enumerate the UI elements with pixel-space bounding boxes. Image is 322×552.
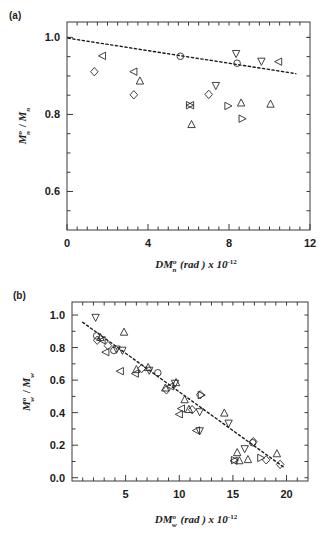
x-tick-label: 20 <box>280 488 292 500</box>
data-point-triangle-up <box>237 99 244 106</box>
x-tick-label: 10 <box>173 488 185 500</box>
data-point-triangle-down <box>232 50 239 57</box>
data-point-diamond <box>276 460 284 468</box>
title-subscript-2: n <box>24 108 32 112</box>
data-point-triangle-up <box>136 77 143 84</box>
data-point-triangle-right <box>225 102 232 109</box>
title-superscript: o <box>173 258 177 266</box>
title-subscript: w <box>28 397 36 402</box>
data-point-triangle-up <box>120 328 127 335</box>
data-point-triangle-left <box>116 367 123 374</box>
title-unit: (rad ) x 10 <box>178 513 229 526</box>
y-tick-label: 0.8 <box>50 342 65 354</box>
data-point-triangle-up <box>188 120 195 127</box>
data-point-triangle-left <box>275 58 282 65</box>
y-axis-title: Mon / Mn <box>16 108 32 146</box>
x-tick-label: 0 <box>64 237 70 249</box>
title-exponent: -12 <box>227 258 237 266</box>
data-point-triangle-down <box>258 58 265 65</box>
x-tick-label: 8 <box>226 237 232 249</box>
data-point-triangle-down <box>225 420 232 427</box>
panel-a: (a) 048120.60.81.0DMon (rad ) x 10-12Mon… <box>0 0 322 280</box>
data-point-triangle-down <box>92 314 99 321</box>
y-tick-label: 0.0 <box>50 472 65 484</box>
x-tick-label: 15 <box>227 488 239 500</box>
title-superscript: o <box>20 397 28 401</box>
y-tick-label: 0.2 <box>50 439 65 451</box>
data-point-triangle-down <box>212 82 219 89</box>
title-main: DM <box>154 513 174 525</box>
x-tick-label: 4 <box>145 237 152 249</box>
data-point-triangle-up <box>234 449 241 456</box>
data-point-diamond <box>130 91 138 99</box>
title-superscript: o <box>173 513 177 521</box>
title-superscript: o <box>16 130 24 134</box>
data-point-diamond <box>205 90 213 98</box>
y-tick-label: 1.0 <box>50 309 65 321</box>
y-tick-label: 0.8 <box>45 108 60 120</box>
data-point-diamond <box>91 67 99 75</box>
title-exponent: -12 <box>228 513 238 521</box>
data-point-triangle-up <box>267 100 274 107</box>
title-unit: (rad ) x 10 <box>177 258 228 271</box>
data-point-triangle-up <box>273 450 280 457</box>
data-point-triangle-down <box>241 446 248 453</box>
y-tick-label: 0.6 <box>50 374 65 386</box>
data-point-triangle-left <box>175 411 182 418</box>
title-subscript: n <box>24 131 32 135</box>
data-point-triangle-left <box>131 370 138 377</box>
trend-line <box>68 38 296 73</box>
x-tick-label: 12 <box>304 237 316 249</box>
data-point-triangle-down <box>196 409 203 416</box>
title-subscript-2: w <box>28 373 36 378</box>
y-tick-label: 1.0 <box>45 31 60 43</box>
title-subscript: n <box>172 266 176 274</box>
panel-b-plot: 51015200.00.20.40.60.81.0DMow (rad ) x 1… <box>0 280 322 552</box>
title-slash: / <box>20 387 32 396</box>
data-point-circle <box>234 60 241 67</box>
title-slash: / <box>16 121 28 130</box>
plot-frame <box>72 302 308 481</box>
title-main: DM <box>154 258 174 270</box>
data-point-circle <box>155 370 162 377</box>
y-axis-title: Mow / Mw <box>20 373 36 412</box>
x-tick-label: 5 <box>123 488 129 500</box>
data-point-triangle-up <box>221 409 228 416</box>
figure-container: (a) 048120.60.81.0DMon (rad ) x 10-12Mon… <box>0 0 322 552</box>
data-point-triangle-up <box>244 456 251 463</box>
data-point-triangle-right <box>239 115 246 122</box>
panel-b: (b) 51015200.00.20.40.60.81.0DMow (rad )… <box>0 280 322 552</box>
data-point-triangle-up <box>181 396 188 403</box>
title-subscript: w <box>172 521 177 529</box>
panel-a-plot: 048120.60.81.0DMon (rad ) x 10-12Mon / M… <box>0 0 322 280</box>
data-point-triangle-left <box>130 68 137 75</box>
data-point-triangle-left <box>98 52 105 59</box>
y-tick-label: 0.6 <box>45 185 60 197</box>
y-tick-label: 0.4 <box>50 407 66 419</box>
x-axis-title: DMon (rad ) x 10-12 <box>154 258 237 274</box>
x-axis-title: DMow (rad ) x 10-12 <box>154 513 238 529</box>
